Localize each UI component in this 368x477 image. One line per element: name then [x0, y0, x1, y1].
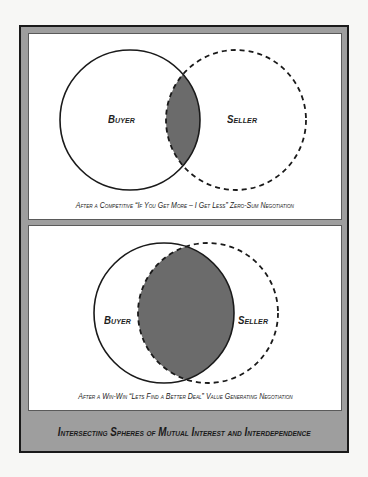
panel-win-win: Buyer Seller After a Win-Win “Lets Find …	[28, 225, 342, 411]
panel-competitive: Buyer Seller After a Competitive “If You…	[28, 33, 342, 220]
caption-text: After a Competitive “If You Get More – I…	[76, 200, 294, 210]
caption-text: After a Win-Win “Lets Find a Better Deal…	[78, 391, 292, 401]
buyer-label: Buyer	[104, 314, 131, 326]
diagram-frame: Buyer Seller After a Competitive “If You…	[19, 25, 349, 453]
venn-win-win	[29, 226, 343, 412]
diagram-title-banner: Intersecting Spheres of Mutual Interest …	[21, 413, 347, 451]
seller-label: Seller	[227, 113, 257, 125]
venn-competitive	[29, 34, 343, 221]
buyer-label: Buyer	[108, 113, 135, 125]
caption-win-win: After a Win-Win “Lets Find a Better Deal…	[29, 391, 341, 401]
caption-competitive: After a Competitive “If You Get More – I…	[29, 200, 341, 210]
seller-label: Seller	[238, 314, 268, 326]
diagram-title: Intersecting Spheres of Mutual Interest …	[58, 425, 311, 439]
